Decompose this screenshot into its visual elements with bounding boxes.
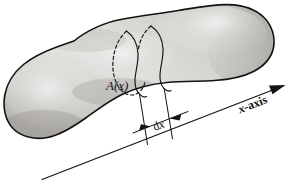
x-axis-arrowhead xyxy=(269,85,286,94)
x-axis-label: x-axis xyxy=(235,92,269,116)
cross-section-area-label-a: A xyxy=(105,78,114,93)
dx-label: dx xyxy=(151,116,167,133)
right-cap-shading xyxy=(207,6,299,90)
cross-section-volume-diagram: x-axis dx A(x) xyxy=(0,0,302,196)
cross-section-area-label: A(x) xyxy=(105,78,128,93)
projection-line-left xyxy=(140,94,148,144)
upper-left-edge-shading xyxy=(46,28,126,52)
figure-root: x-axis dx A(x) xyxy=(0,0,302,196)
area-label-group: A(x) xyxy=(105,78,128,93)
x-axis-label-suffix: -axis xyxy=(242,92,270,114)
cross-section-area-label-arg: (x) xyxy=(114,78,128,93)
dx-dimension: dx xyxy=(133,112,188,134)
